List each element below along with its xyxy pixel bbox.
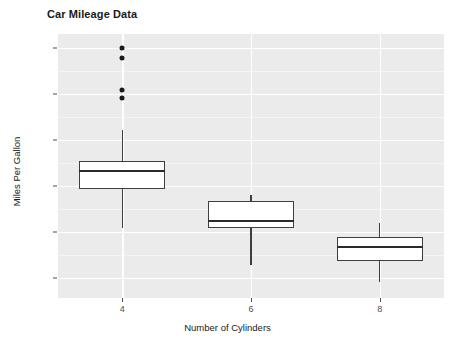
y-tick-mark	[53, 47, 57, 48]
y-tick-mark	[53, 93, 57, 94]
whisker-upper	[379, 223, 380, 238]
y-tick-mark	[53, 185, 57, 186]
median-line	[337, 246, 423, 248]
boxplot-chart: Car Mileage Data 101520253035468 Number …	[0, 0, 455, 352]
y-tick-mark	[53, 277, 57, 278]
outlier-point	[120, 96, 125, 101]
x-tick-label: 6	[248, 304, 253, 314]
x-tick-mark	[122, 298, 123, 302]
box-iqr	[208, 201, 294, 228]
whisker-lower	[122, 189, 123, 228]
x-tick-label: 4	[120, 304, 125, 314]
x-tick-label: 8	[377, 304, 382, 314]
outlier-point	[120, 45, 125, 50]
whisker-lower	[379, 261, 380, 282]
x-tick-mark	[251, 298, 252, 302]
x-axis-title: Number of Cylinders	[0, 322, 455, 333]
y-tick-mark	[53, 139, 57, 140]
y-axis-title: Miles Per Gallon	[11, 112, 22, 232]
outlier-point	[120, 55, 125, 60]
box-iqr	[79, 161, 165, 190]
plot-panel	[58, 34, 444, 298]
median-line	[79, 170, 165, 172]
whisker-upper	[122, 130, 123, 161]
chart-title: Car Mileage Data	[47, 8, 137, 20]
x-tick-mark	[380, 298, 381, 302]
outlier-point	[120, 88, 125, 93]
y-tick-mark	[53, 231, 57, 232]
box-iqr	[337, 237, 423, 261]
median-line	[208, 220, 294, 222]
whisker-lower	[250, 228, 251, 265]
